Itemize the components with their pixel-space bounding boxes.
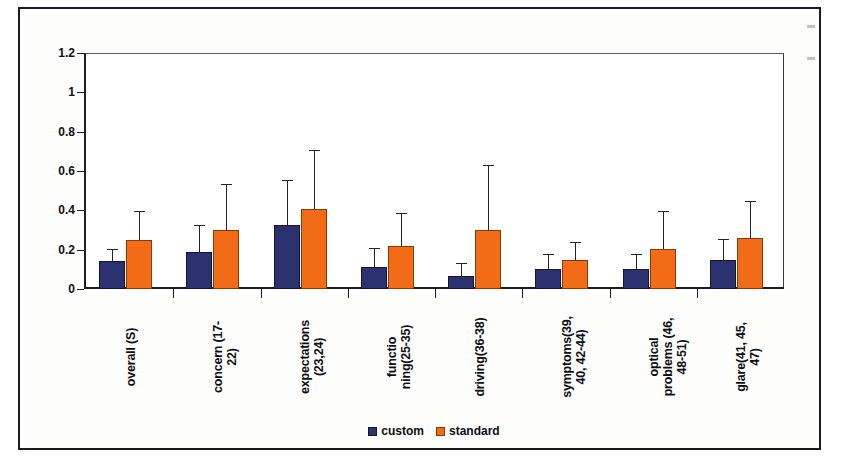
error-bar-cap-custom	[631, 254, 642, 255]
bar-standard	[126, 240, 152, 289]
x-axis-category-label: functio ning(25-35)	[385, 301, 413, 413]
x-axis-category-label: symptoms(39, 40, 42-44)	[560, 301, 588, 413]
scan-margin-left	[0, 0, 16, 463]
bar-group	[173, 53, 260, 289]
x-axis-tick	[348, 289, 349, 298]
error-bar-cap-standard	[396, 213, 407, 214]
bar-group	[697, 53, 784, 289]
error-bar-cap-custom	[369, 248, 380, 249]
x-axis-category-label: glare(41, 45, 47)	[734, 301, 762, 413]
error-bar-custom	[636, 255, 637, 270]
bar-custom	[448, 276, 474, 289]
bar-standard	[301, 209, 327, 289]
bar-standard	[475, 230, 501, 289]
x-axis-tick	[522, 289, 523, 298]
bar-custom	[361, 267, 387, 289]
bar-standard	[213, 230, 239, 289]
y-axis-tick	[77, 171, 84, 172]
bar-group	[86, 53, 173, 289]
y-axis-tick-label: 0.2	[58, 244, 75, 256]
bar-group	[522, 53, 609, 289]
bar-custom	[186, 252, 212, 289]
error-bar-cap-standard	[570, 242, 581, 243]
x-axis-category-labels: overall (S)concern (17- 22)expectations …	[86, 301, 784, 419]
y-axis-tick-label: 1	[68, 86, 75, 98]
error-bar-standard	[401, 214, 402, 245]
y-axis-tick-label: 0.4	[58, 204, 75, 216]
error-bar-cap-standard	[658, 211, 669, 212]
x-axis-tick	[610, 289, 611, 298]
x-axis-category-label: concern (17- 22)	[211, 301, 239, 413]
scan-artifact-mark	[807, 25, 815, 28]
error-bar-custom	[287, 181, 288, 225]
error-bar-cap-custom	[718, 239, 729, 240]
error-bar-custom	[374, 249, 375, 268]
bar-group	[435, 53, 522, 289]
bar-standard	[737, 238, 763, 289]
legend-label: custom	[381, 425, 424, 437]
scan-artifact-mark-secondary	[807, 57, 815, 60]
x-axis-tick	[261, 289, 262, 298]
y-axis-tick	[77, 53, 84, 54]
bar-group	[348, 53, 435, 289]
error-bar-custom	[723, 240, 724, 261]
error-bar-cap-custom	[282, 180, 293, 181]
y-axis-tick-label: 0.6	[58, 165, 75, 177]
error-bar-cap-custom	[107, 249, 118, 250]
error-bar-custom	[461, 264, 462, 276]
error-bar-standard	[750, 202, 751, 237]
bar-standard	[388, 246, 414, 289]
error-bar-standard	[139, 212, 140, 240]
bar-custom	[623, 269, 649, 289]
legend-swatch-icon	[436, 427, 445, 436]
x-axis-tick	[697, 289, 698, 298]
bars-layer	[86, 53, 784, 289]
error-bar-standard	[226, 185, 227, 230]
y-axis-tick	[77, 92, 84, 93]
y-axis-tick	[77, 132, 84, 133]
error-bar-custom	[112, 250, 113, 262]
error-bar-standard	[488, 166, 489, 230]
x-axis-category-label: expectations (23,24)	[298, 301, 326, 413]
legend-label: standard	[449, 425, 500, 437]
error-bar-cap-custom	[194, 225, 205, 226]
legend-item-standard: standard	[436, 425, 500, 437]
bar-custom	[274, 225, 300, 289]
error-bar-cap-standard	[134, 211, 145, 212]
error-bar-cap-custom	[543, 254, 554, 255]
bar-custom	[535, 269, 561, 289]
x-axis-tick	[173, 289, 174, 298]
error-bar-cap-standard	[483, 165, 494, 166]
error-bar-cap-standard	[309, 150, 320, 151]
x-axis-category-label: driving(36-38)	[473, 301, 487, 413]
bar-standard	[650, 249, 676, 289]
figure-frame: 00.20.40.60.811.2 overall (S)concern (17…	[18, 7, 821, 450]
x-axis-tick	[435, 289, 436, 298]
bar-custom	[99, 261, 125, 289]
error-bar-standard	[314, 151, 315, 209]
error-bar-custom	[548, 255, 549, 270]
legend-swatch-icon	[368, 427, 377, 436]
error-bar-custom	[199, 226, 200, 252]
y-axis-tick	[77, 210, 84, 211]
bar-group	[610, 53, 697, 289]
error-bar-cap-standard	[745, 201, 756, 202]
x-axis-category-label: optical problems (46, 48-51)	[647, 301, 689, 413]
y-axis-tick-labels: 00.20.40.60.811.2	[56, 33, 75, 293]
error-bar-standard	[663, 212, 664, 248]
chart-legend: customstandard	[56, 425, 812, 437]
bar-group	[261, 53, 348, 289]
y-axis-tick	[77, 289, 84, 290]
error-bar-standard	[575, 243, 576, 260]
error-bar-cap-custom	[456, 263, 467, 264]
y-axis-tick	[77, 250, 84, 251]
bar-standard	[562, 260, 588, 290]
x-axis-category-label: overall (S)	[124, 301, 138, 413]
y-axis-tick-label: 1.2	[58, 47, 75, 59]
error-bar-cap-standard	[221, 184, 232, 185]
legend-item-custom: custom	[368, 425, 424, 437]
y-axis-tick-label: 0.8	[58, 126, 75, 138]
chart-area: 00.20.40.60.811.2 overall (S)concern (17…	[56, 33, 801, 431]
y-axis-tick-label: 0	[68, 283, 75, 295]
bar-custom	[710, 260, 736, 289]
